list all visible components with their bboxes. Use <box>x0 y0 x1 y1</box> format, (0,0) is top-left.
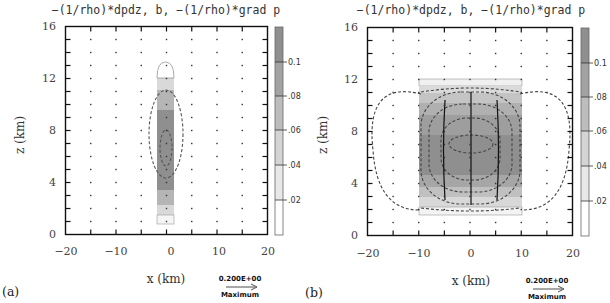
xtick-label: −10 <box>104 245 127 258</box>
x-axis-label: x (km) <box>147 272 186 286</box>
ytick-label: 8 <box>49 124 56 137</box>
ytick-label: 12 <box>344 73 358 86</box>
plot-title: −(1/rho)*dpdz, b, −(1/rho)*grad p <box>52 3 281 17</box>
colorbar: 0.1 .08 .06 .04 .02 <box>275 27 301 235</box>
xtick-label: 10 <box>515 247 529 260</box>
ytick-label: 0 <box>49 228 56 241</box>
xtick-label: 20 <box>566 247 580 260</box>
xtick-label: −20 <box>54 245 77 258</box>
colorbar-label: .08 <box>594 93 607 102</box>
panel-label: (b) <box>305 285 323 300</box>
svg-text:Maximum: Maximum <box>528 293 566 301</box>
x-axis-label: x (km) <box>452 274 491 288</box>
y-axis-label: z (km) <box>316 116 330 154</box>
xtick-label: −10 <box>407 247 430 260</box>
plot-a: −(1/rho)*dpdz, b, −(1/rho)*grad p 16 12 … <box>0 0 305 303</box>
reference-vector: 0.200E+00 Maximum <box>526 277 569 301</box>
colorbar-label: .04 <box>594 162 607 171</box>
colorbar-label: .02 <box>594 197 607 206</box>
colorbar-label: 0.1 <box>288 58 301 67</box>
ytick-label: 4 <box>351 177 358 190</box>
panel-label: (a) <box>2 284 19 299</box>
xtick-label: 20 <box>261 245 275 258</box>
xtick-label: −20 <box>356 247 379 260</box>
y-axis-label: z (km) <box>13 116 27 154</box>
colorbar-label: .04 <box>288 161 301 170</box>
ytick-label: 8 <box>351 125 358 138</box>
svg-text:Maximum: Maximum <box>221 291 259 299</box>
ytick-label: 0 <box>351 229 358 242</box>
svg-text:0.200E+00: 0.200E+00 <box>219 275 262 283</box>
xtick-label: 10 <box>212 245 226 258</box>
xtick-label: 0 <box>168 245 175 258</box>
reference-vector: 0.200E+00 Maximum <box>219 275 262 299</box>
colorbar-label: .06 <box>594 127 607 136</box>
colorbar-label: .08 <box>288 92 301 101</box>
colorbar-label: .02 <box>288 196 301 205</box>
svg-text:0.200E+00: 0.200E+00 <box>526 277 569 285</box>
panel-a: −(1/rho)*dpdz, b, −(1/rho)*grad p 16 12 … <box>0 0 305 303</box>
panel-b: −(1/rho)*dpdz, b, −(1/rho)*grad p <box>305 0 610 303</box>
plot-b: −(1/rho)*dpdz, b, −(1/rho)*grad p <box>305 0 610 303</box>
buoyancy-shading <box>157 62 174 224</box>
ytick-label: 16 <box>42 20 56 33</box>
ytick-label: 4 <box>49 176 56 189</box>
colorbar-label: .06 <box>288 126 301 135</box>
plot-title: −(1/rho)*dpdz, b, −(1/rho)*grad p <box>357 3 586 17</box>
ytick-label: 12 <box>42 72 56 85</box>
xtick-label: 0 <box>468 247 475 260</box>
colorbar-label: 0.1 <box>594 59 607 68</box>
colorbar: 0.1 .08 .06 .04 .02 <box>581 28 607 236</box>
ytick-label: 16 <box>344 21 358 34</box>
